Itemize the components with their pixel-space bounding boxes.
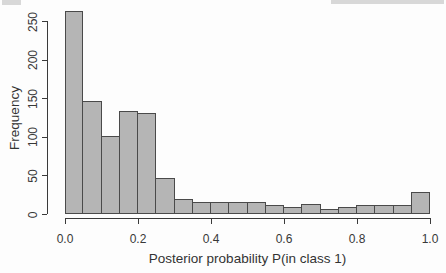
y-tick-label: 100 (27, 127, 39, 147)
x-axis-title: Posterior probability P(in class 1) (149, 251, 346, 266)
histogram-bar (356, 205, 375, 214)
x-tick (211, 219, 212, 224)
histogram-bar (228, 202, 247, 214)
histogram-bar (374, 205, 393, 214)
x-tick-label: 1.0 (422, 233, 439, 245)
x-axis-line (65, 218, 431, 219)
x-tick-label: 0.0 (57, 233, 74, 245)
x-tick (430, 219, 431, 224)
y-tick-label: 50 (27, 169, 39, 182)
histogram-bar (101, 136, 120, 214)
y-axis-title: Frequency (7, 86, 22, 150)
histogram-bar (82, 101, 101, 214)
histogram-bar (338, 207, 357, 214)
x-tick-label: 0.2 (130, 233, 147, 245)
histogram-figure: 050100150200250 Frequency 0.00.20.40.60.… (0, 0, 446, 273)
histogram-bar (65, 11, 83, 214)
histogram-bar (393, 205, 412, 214)
y-tick-label: 150 (27, 89, 39, 109)
plot-area: 050100150200250 Frequency 0.00.20.40.60.… (0, 0, 446, 273)
y-tick (42, 60, 47, 61)
y-tick-label: 200 (27, 50, 39, 70)
histogram-bar (192, 202, 211, 214)
histogram-bar (411, 192, 430, 214)
histogram-bar (155, 178, 174, 214)
y-tick (42, 214, 47, 215)
x-tick (65, 219, 66, 224)
x-tick-label: 0.8 (349, 233, 366, 245)
y-tick (42, 98, 47, 99)
histogram-bar (210, 202, 229, 214)
x-tick-label: 0.4 (203, 233, 220, 245)
x-tick-label: 0.6 (276, 233, 293, 245)
y-tick-label: 250 (27, 11, 39, 31)
histogram-bar (265, 205, 284, 214)
histogram-bar (247, 202, 266, 214)
histogram-bar (320, 209, 339, 214)
x-tick (284, 219, 285, 224)
histogram-bar (174, 199, 193, 214)
x-tick (138, 219, 139, 224)
x-tick (357, 219, 358, 224)
y-tick (42, 137, 47, 138)
histogram-bar (119, 111, 138, 214)
y-tick (42, 21, 47, 22)
y-axis-line (47, 21, 48, 214)
histogram-bar (301, 204, 320, 214)
y-tick (42, 175, 47, 176)
y-tick-label: 0 (27, 211, 39, 218)
histogram-bar (283, 207, 302, 214)
histogram-bar (137, 113, 156, 214)
